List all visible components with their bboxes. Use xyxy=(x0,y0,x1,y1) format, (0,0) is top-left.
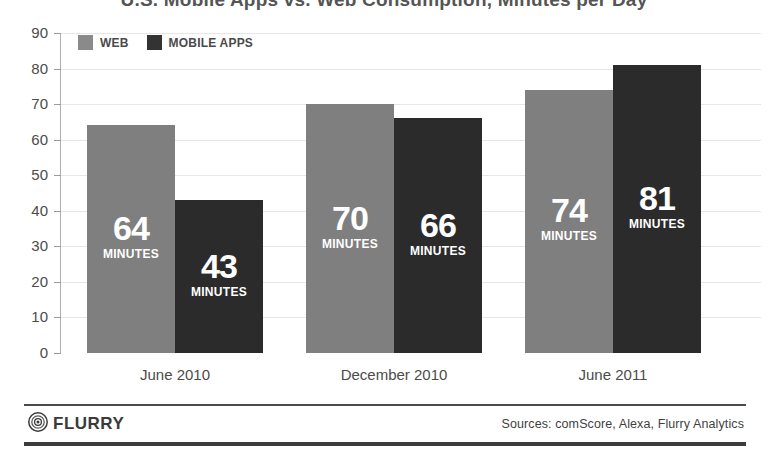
chart-legend: WEB MOBILE APPS xyxy=(78,35,253,50)
page-title: U.S. Mobile Apps vs. Web Consumption, Mi… xyxy=(0,0,768,11)
bar-web-june-2011[interactable]: 74MINUTES xyxy=(525,90,613,353)
bar-unit-label: MINUTES xyxy=(175,286,263,298)
bar-mobile-apps-december-2010[interactable]: 66MINUTES xyxy=(394,118,482,353)
bar-unit-label: MINUTES xyxy=(613,218,701,230)
bar-unit-label: MINUTES xyxy=(525,230,613,242)
flurry-target-icon xyxy=(28,412,48,436)
bar-value-label: 66 xyxy=(394,208,482,242)
bar-value-label: 74 xyxy=(525,193,613,227)
bar-mobile-apps-june-2010[interactable]: 43MINUTES xyxy=(175,200,263,353)
bar-web-december-2010[interactable]: 70MINUTES xyxy=(306,104,394,353)
sources-text: Sources: comScore, Alexa, Flurry Analyti… xyxy=(502,417,746,431)
flurry-logo: FLURRY xyxy=(24,412,124,436)
bar-value-label: 64 xyxy=(87,211,175,245)
legend-item-mobile-apps: MOBILE APPS xyxy=(147,35,253,50)
x-axis-category-label: June 2010 xyxy=(87,366,263,383)
chart-plot-area: 9080706050403020100 64MINUTES43MINUTES70… xyxy=(0,18,768,400)
legend-swatch-web-icon xyxy=(78,35,93,50)
x-axis-category-label: December 2010 xyxy=(306,366,482,383)
chart-footer: FLURRY Sources: comScore, Alexa, Flurry … xyxy=(24,404,746,446)
bar-value-label: 81 xyxy=(613,181,701,215)
bar-unit-label: MINUTES xyxy=(306,238,394,250)
bar-unit-label: MINUTES xyxy=(394,245,482,257)
footer-divider-bottom xyxy=(24,442,746,446)
x-axis-category-label: June 2011 xyxy=(525,366,701,383)
bar-value-label: 70 xyxy=(306,201,394,235)
flurry-wordmark: FLURRY xyxy=(53,414,124,434)
bar-value-label: 43 xyxy=(175,249,263,283)
bars-layer: 64MINUTES43MINUTES70MINUTES66MINUTES74MI… xyxy=(0,18,768,400)
legend-swatch-mobile-apps-icon xyxy=(147,35,162,50)
bar-mobile-apps-june-2011[interactable]: 81MINUTES xyxy=(613,65,701,353)
legend-label-web: WEB xyxy=(100,36,129,50)
bar-unit-label: MINUTES xyxy=(87,248,175,260)
legend-item-web: WEB xyxy=(78,35,129,50)
legend-label-mobile-apps: MOBILE APPS xyxy=(169,36,253,50)
bar-web-june-2010[interactable]: 64MINUTES xyxy=(87,125,175,353)
